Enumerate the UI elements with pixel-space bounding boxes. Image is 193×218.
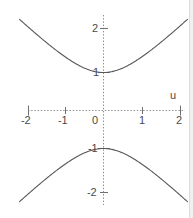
- y-tick-label-minus-two: -2: [87, 187, 96, 198]
- x-tick-label-minus2: -2: [21, 115, 30, 126]
- x-tick-label-two: 2: [176, 115, 182, 126]
- hyperbola-figure: -2 -1 0 1 2 2 1 -1 -2 u: [0, 0, 193, 218]
- curve-upper-branch: [20, 19, 188, 72]
- y-tick-label-two: 2: [92, 23, 98, 34]
- x-tick-label-one: 1: [139, 115, 145, 126]
- page-edge-line: [189, 0, 190, 218]
- y-tick-label-minus-one: -1: [88, 143, 97, 154]
- x-axis-name-label: u: [170, 90, 176, 101]
- y-tick-label-one: 1: [93, 67, 99, 78]
- x-tick-label-zero: 0: [92, 115, 98, 126]
- x-tick-label-minus1: -1: [58, 115, 67, 126]
